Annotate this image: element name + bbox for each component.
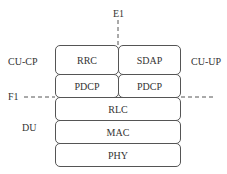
sdap-block: SDAP <box>118 45 181 75</box>
pdcp-cp-block: PDCP <box>55 74 119 98</box>
pdcp-up-block: PDCP <box>118 74 181 98</box>
f1-label: F1 <box>8 91 19 102</box>
cu-cp-label: CU-CP <box>8 56 37 67</box>
cu-up-label: CU-UP <box>191 56 221 67</box>
rrc-block: RRC <box>55 45 119 75</box>
du-label: DU <box>22 122 36 133</box>
e1-label: E1 <box>113 8 124 19</box>
mac-block: MAC <box>55 120 181 144</box>
rlc-block: RLC <box>55 97 181 121</box>
phy-block: PHY <box>55 143 181 167</box>
